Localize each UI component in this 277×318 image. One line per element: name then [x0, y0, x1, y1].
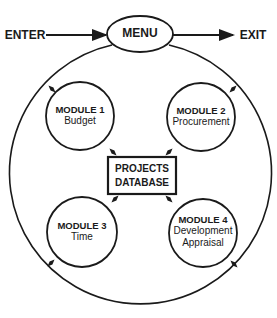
enter-label: ENTER — [4, 28, 46, 42]
exit-label: EXIT — [238, 28, 268, 42]
module-3-outer-connector-icon — [46, 258, 56, 268]
module-1-outer-connector-icon — [47, 84, 57, 94]
module-2-label: MODULE 2 Procurement — [163, 105, 239, 128]
module-4-name-line1: Development — [166, 225, 240, 237]
module-3-title: MODULE 3 — [57, 220, 106, 231]
module-4-name-line2: Appraisal — [166, 237, 240, 249]
module-2-db-connector-icon — [164, 147, 174, 157]
module-4-label: MODULE 4 Development Appraisal — [166, 214, 240, 249]
module-2-name: Procurement — [163, 116, 239, 128]
module-3-name: Time — [47, 231, 117, 243]
module-4-db-connector-icon — [164, 194, 174, 204]
database-line-1: PROJECTS — [108, 162, 176, 176]
database-line-2: DATABASE — [108, 176, 176, 190]
module-1-name: Budget — [46, 115, 114, 127]
module-3-label: MODULE 3 Time — [47, 220, 117, 243]
module-1-label: MODULE 1 Budget — [46, 104, 114, 127]
module-2-title: MODULE 2 — [176, 105, 225, 116]
projects-database-label: PROJECTS DATABASE — [108, 162, 176, 189]
module-2-outer-connector-icon — [228, 84, 238, 94]
system-flow-diagram — [0, 0, 277, 318]
menu-label: MENU — [107, 26, 173, 40]
module-1-title: MODULE 1 — [55, 104, 104, 115]
module-3-db-connector-icon — [110, 194, 120, 204]
module-1-db-connector-icon — [108, 147, 118, 157]
figure-caption-fragment: FIGURE — [120, 0, 160, 3]
module-4-title: MODULE 4 — [178, 214, 227, 225]
